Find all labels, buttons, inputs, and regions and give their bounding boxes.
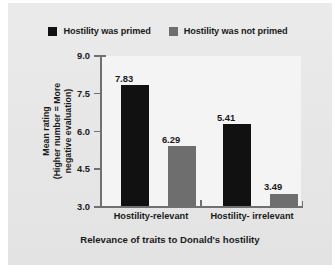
- legend-item-not-primed: Hostility was not primed: [169, 26, 288, 36]
- y-tick-mark-3-0: [94, 206, 101, 208]
- y-tick-label-4-5: 4.5: [44, 163, 90, 174]
- bar-not-primed-hostility-relevant: [168, 146, 196, 206]
- bar-not-primed-hostility-irrelevant: [270, 194, 298, 206]
- y-tick-label-3-0: 3.0: [44, 201, 90, 212]
- x-axis-center-tick: [200, 200, 202, 207]
- legend-swatch-not-primed-icon: [169, 27, 178, 36]
- bar-value-not-primed-hostility-relevant: 6.29: [154, 134, 188, 145]
- bar-value-primed-hostility-relevant: 7.83: [107, 73, 141, 84]
- y-tick-label-6-0: 6.0: [44, 126, 90, 137]
- y-tick-label-9-0: 9.0: [44, 50, 90, 61]
- bar-value-primed-hostility-irrelevant: 5.41: [209, 112, 243, 123]
- legend-label-not-primed: Hostility was not primed: [184, 26, 288, 36]
- x-axis-right-stub: [302, 201, 304, 207]
- y-tick-mark-9-0: [94, 55, 101, 57]
- x-category-label-hostility-relevant: Hostility-relevant: [101, 211, 201, 221]
- chart-figure: Hostility was primed Hostility was not p…: [0, 0, 335, 277]
- y-tick-mark-7-5: [94, 93, 101, 95]
- y-tick-label-7-5: 7.5: [44, 88, 90, 99]
- y-tick-mark-6-0: [94, 131, 101, 133]
- bar-primed-hostility-irrelevant: [223, 124, 251, 206]
- x-category-label-hostility-irrelevant: Hostility- irrelevant: [201, 211, 303, 221]
- y-tick-mark-4-5: [94, 168, 101, 170]
- bar-value-not-primed-hostility-irrelevant: 3.49: [256, 181, 290, 192]
- bar-primed-hostility-relevant: [121, 85, 149, 206]
